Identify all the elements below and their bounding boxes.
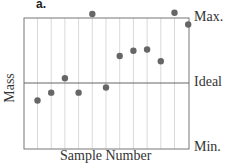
max-label: Max. xyxy=(194,9,223,25)
y-axis-label: Mass xyxy=(2,68,18,108)
data-point xyxy=(117,53,123,59)
data-points xyxy=(34,10,191,104)
data-point xyxy=(144,46,150,52)
data-point xyxy=(158,58,164,64)
x-axis-label: Sample Number xyxy=(60,148,151,163)
ideal-label: Ideal xyxy=(194,74,222,90)
data-point xyxy=(34,97,40,103)
data-point xyxy=(89,11,95,17)
data-point xyxy=(130,48,136,54)
min-label: Min. xyxy=(194,139,221,155)
data-point xyxy=(185,21,191,27)
data-point xyxy=(171,10,177,16)
data-point xyxy=(75,89,81,95)
data-point xyxy=(62,75,68,81)
data-point xyxy=(103,84,109,90)
data-point xyxy=(48,89,54,95)
